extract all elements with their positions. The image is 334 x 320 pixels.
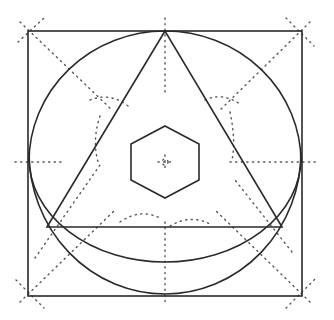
construction-arc-right-lower: [230, 112, 234, 160]
construction-arc-right-upper: [205, 97, 240, 104]
construction-line-right-base: [235, 180, 292, 252]
diagonal-top-left: [20, 22, 112, 110]
diagonal-top-right: [220, 22, 310, 110]
diagonal-bottom-right: [215, 210, 310, 302]
construction-lines: [15, 18, 318, 308]
diagonal-bottom-left: [20, 210, 115, 302]
corner-mark-bottom-left: [16, 280, 44, 308]
geometry-diagram: [0, 0, 334, 320]
construction-arc-bottom: [120, 214, 160, 222]
circle-lower-inner-arc: [29, 158, 301, 262]
construction-arc-bottom-right: [170, 219, 210, 226]
corner-mark-top-left: [18, 18, 44, 42]
circle-upper: [29, 31, 301, 162]
